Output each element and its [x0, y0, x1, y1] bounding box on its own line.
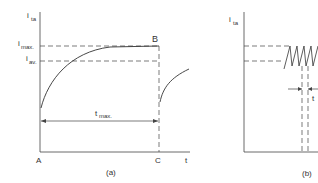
- recharge-curve: [160, 69, 189, 102]
- point-b-label: B: [152, 34, 158, 44]
- x-axis-label-a: t: [185, 156, 188, 165]
- y-axis-label-a: i: [27, 11, 29, 20]
- sawtooth-waveform: [284, 46, 318, 69]
- i-max-label: i: [18, 39, 20, 48]
- panel-b: i ta t (b): [229, 12, 318, 178]
- i-av-label: i: [26, 54, 28, 63]
- caption-b: (b): [302, 169, 312, 178]
- point-a-label: A: [36, 156, 42, 165]
- y-axis-sub-b: ta: [233, 20, 239, 26]
- interval-arrowhead-right: [308, 87, 312, 91]
- y-axis-label-b: i: [229, 15, 231, 24]
- interval-arrowhead-left: [298, 87, 302, 91]
- t-max-arrowhead-right: [153, 119, 158, 123]
- t-max-label: t: [95, 109, 98, 118]
- t-max-arrowhead-left: [41, 119, 46, 123]
- panel-a: i ta i max. i av. B t max. A C t (a): [18, 11, 190, 177]
- point-c-label: C: [155, 156, 161, 165]
- charging-curve: [41, 46, 159, 108]
- t-max-sub: max.: [99, 113, 112, 119]
- caption-a: (a): [106, 168, 116, 177]
- i-av-sub: av.: [29, 59, 37, 65]
- interval-label: t: [312, 94, 315, 103]
- diagram-canvas: i ta i max. i av. B t max. A C t (a) i t…: [0, 0, 318, 183]
- i-max-sub: max.: [21, 44, 34, 50]
- y-axis-sub-a: ta: [31, 16, 37, 22]
